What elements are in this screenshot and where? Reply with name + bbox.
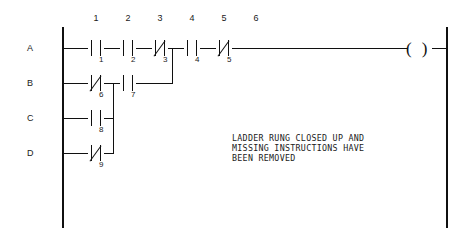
branch-tie-bar bbox=[113, 83, 114, 154]
contact-2-number: 2 bbox=[131, 56, 135, 64]
wire-c-seg1 bbox=[63, 118, 88, 119]
wire-a-seg4 bbox=[168, 48, 184, 49]
wire-a-seg1 bbox=[63, 48, 88, 49]
wire-a-to-coil bbox=[232, 48, 408, 49]
coil-left-paren: ( bbox=[406, 39, 412, 58]
row-label-c: C bbox=[27, 114, 34, 123]
ladder-diagram-canvas: 1 2 3 4 5 6 A B C D 1 2 3 4 bbox=[0, 0, 475, 236]
wire-b-seg2 bbox=[104, 83, 120, 84]
contact-1[interactable] bbox=[88, 40, 104, 56]
contact-8-right-bar bbox=[100, 110, 101, 126]
contact-1-left-bar bbox=[91, 40, 92, 56]
contact-5-number: 5 bbox=[227, 56, 231, 64]
contact-7-left-bar bbox=[123, 75, 124, 91]
column-label-6: 6 bbox=[250, 14, 262, 23]
contact-1-right-bar bbox=[100, 40, 101, 56]
annotation-line-2: MISSING INSTRUCTIONS HAVE bbox=[232, 143, 364, 153]
wire-a-seg3 bbox=[136, 48, 152, 49]
contact-2[interactable] bbox=[120, 40, 136, 56]
contact-9-number: 9 bbox=[99, 161, 103, 169]
row-label-a: A bbox=[27, 44, 33, 53]
contact-7-right-bar bbox=[132, 75, 133, 91]
wire-d-seg1 bbox=[63, 153, 88, 154]
right-power-rail bbox=[446, 27, 448, 228]
branch-return-riser bbox=[172, 48, 173, 84]
contact-4-right-bar bbox=[196, 40, 197, 56]
wire-a-seg2 bbox=[104, 48, 120, 49]
contact-8-left-bar bbox=[91, 110, 92, 126]
output-coil[interactable]: () bbox=[406, 40, 427, 57]
left-power-rail bbox=[62, 27, 64, 228]
contact-4[interactable] bbox=[184, 40, 200, 56]
annotation-line-1: LADDER RUNG CLOSED UP AND bbox=[232, 133, 364, 143]
contact-8-number: 8 bbox=[99, 126, 103, 134]
row-label-d: D bbox=[27, 149, 34, 158]
contact-7-number: 7 bbox=[131, 91, 135, 99]
contact-2-right-bar bbox=[132, 40, 133, 56]
contact-4-left-bar bbox=[187, 40, 188, 56]
coil-right-paren: ) bbox=[422, 39, 428, 58]
row-label-b: B bbox=[27, 79, 33, 88]
column-label-4: 4 bbox=[186, 14, 198, 23]
wire-coil-to-rail bbox=[432, 48, 447, 49]
contact-8[interactable] bbox=[88, 110, 104, 126]
column-label-5: 5 bbox=[218, 14, 230, 23]
contact-7[interactable] bbox=[120, 75, 136, 91]
annotation-line-3: BEEN REMOVED bbox=[232, 153, 296, 163]
contact-3-number: 3 bbox=[163, 56, 167, 64]
contact-6-number: 6 bbox=[99, 91, 103, 99]
contact-6[interactable] bbox=[88, 75, 104, 91]
column-label-2: 2 bbox=[122, 14, 134, 23]
column-label-1: 1 bbox=[90, 14, 102, 23]
contact-5[interactable] bbox=[216, 40, 232, 56]
wire-b-seg3 bbox=[136, 83, 173, 84]
contact-4-number: 4 bbox=[195, 56, 199, 64]
wire-a-seg5 bbox=[200, 48, 216, 49]
contact-3[interactable] bbox=[152, 40, 168, 56]
contact-2-left-bar bbox=[123, 40, 124, 56]
contact-1-number: 1 bbox=[99, 56, 103, 64]
contact-9[interactable] bbox=[88, 145, 104, 161]
column-label-3: 3 bbox=[154, 14, 166, 23]
wire-b-seg1 bbox=[63, 83, 88, 84]
